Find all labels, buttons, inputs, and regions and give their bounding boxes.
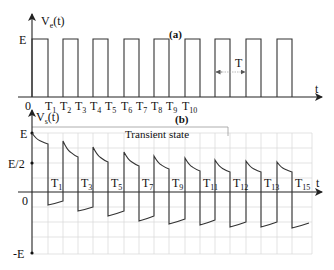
y-label-suffix: (t) — [48, 110, 59, 124]
level-dot-minus-E — [30, 251, 33, 254]
tick-label: T12 — [233, 177, 248, 192]
panel-a-caption: (a) — [169, 29, 182, 40]
tick-label: T2 — [60, 100, 71, 115]
panel-b-level-zero: 0 — [22, 195, 28, 207]
tick-label: T4 — [90, 100, 101, 115]
tick-label: T6 — [121, 100, 132, 115]
tick-label: T1 — [51, 177, 62, 192]
tick-label: T3 — [75, 100, 86, 115]
tick-label: T11 — [203, 177, 218, 192]
tick-label: T9 — [172, 177, 183, 192]
tick-label: T7 — [142, 177, 153, 192]
panel-b-level-E: E — [20, 128, 27, 140]
tick-label: T3 — [81, 177, 92, 192]
panel-b-y-axis-label: Vs(t) — [36, 111, 59, 126]
period-label: T — [235, 57, 242, 69]
grid-b — [32, 133, 312, 254]
panel-a-t-label: t — [315, 83, 318, 95]
panel-b-level-minus-E: -E — [13, 248, 24, 260]
panel-b-t-label: t — [316, 177, 319, 189]
panel-a-origin-label: 0 — [25, 100, 31, 112]
panel-b-level-E-half: E/2 — [8, 158, 25, 170]
tick-label: T5 — [105, 100, 116, 115]
tick-label: T7 — [136, 100, 147, 115]
tick-label: T8 — [151, 100, 162, 115]
tick-label: T13 — [264, 177, 279, 192]
level-dot-E-half — [30, 161, 33, 164]
y-label-v: V — [36, 110, 45, 124]
tick-label: T5 — [111, 177, 122, 192]
panel-a-y-axis-label: Ve(t) — [41, 15, 65, 30]
transient-state-label: Transient state — [125, 129, 189, 140]
square-wave-input — [32, 39, 292, 97]
tick-label: T15 — [295, 177, 310, 192]
y-label-v: V — [41, 14, 50, 28]
panel-a-level-E: E — [19, 34, 26, 46]
y-label-suffix: (t) — [53, 14, 64, 28]
panel-b-caption: (b) — [175, 114, 188, 125]
